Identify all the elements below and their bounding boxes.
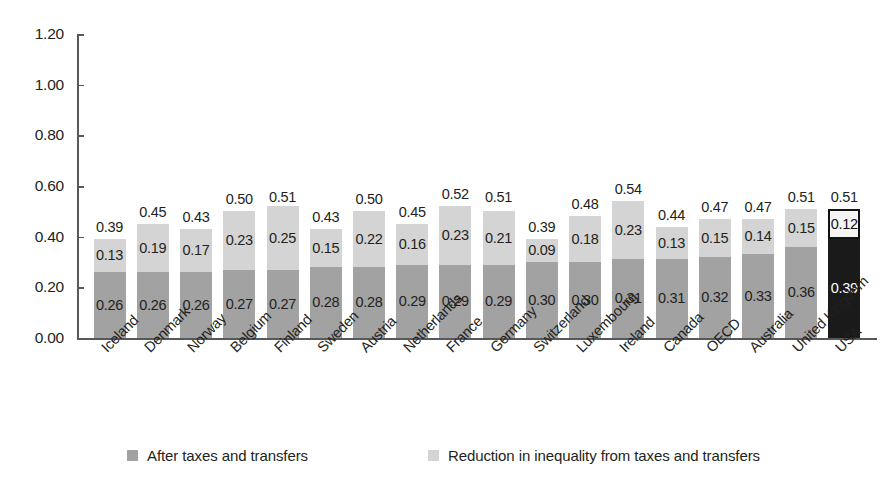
bar-value-label: 0.27 — [269, 297, 296, 312]
bar-value-label: 0.26 — [96, 298, 123, 313]
bar-value-label: 0.27 — [226, 297, 253, 312]
bar-value-label: 0.26 — [139, 298, 166, 313]
bar-segment-reduction[interactable]: 0.22 — [353, 211, 385, 267]
bar-value-label: 0.29 — [399, 294, 426, 309]
legend-swatch-icon — [127, 450, 138, 461]
bar-total-label: 0.44 — [658, 207, 685, 223]
bar-total-label: 0.39 — [528, 219, 555, 235]
y-axis-tick-label: 0.80 — [4, 126, 64, 144]
bar-segment-reduction[interactable]: 0.17 — [180, 229, 212, 272]
bar-value-label: 0.09 — [528, 243, 555, 258]
y-axis-tick-label: 1.00 — [4, 76, 64, 94]
bar-value-label: 0.12 — [831, 217, 858, 232]
bar-value-label: 0.15 — [788, 221, 815, 236]
bar-value-label: 0.19 — [139, 241, 166, 256]
bar-total-label: 0.50 — [226, 191, 253, 207]
bar-value-label: 0.14 — [744, 229, 771, 244]
legend-swatch-icon — [428, 450, 439, 461]
bar-value-label: 0.22 — [355, 232, 382, 247]
legend-label: Reduction in inequality from taxes and t… — [448, 447, 760, 464]
bar-value-label: 0.15 — [701, 231, 728, 246]
bar-germany[interactable]: 0.290.210.51 — [483, 209, 515, 338]
bar-value-label: 0.23 — [615, 223, 642, 238]
bar-total-label: 0.51 — [485, 189, 512, 205]
bar-total-label: 0.43 — [312, 209, 339, 225]
legend-item[interactable]: Reduction in inequality from taxes and t… — [428, 447, 760, 464]
bar-segment-reduction[interactable]: 0.13 — [94, 239, 126, 272]
bar-total-label: 0.51 — [831, 189, 858, 205]
bar-segment-reduction[interactable]: 0.23 — [612, 201, 644, 259]
bar-total-label: 0.52 — [442, 186, 469, 202]
bar-value-label: 0.30 — [528, 293, 555, 308]
bar-total-label: 0.51 — [269, 189, 296, 205]
bar-segment-reduction[interactable]: 0.23 — [223, 211, 255, 269]
y-axis-tick-label: 0.00 — [4, 329, 64, 347]
bar-value-label: 0.32 — [701, 290, 728, 305]
bar-total-label: 0.47 — [744, 199, 771, 215]
chart-legend: After taxes and transfersReduction in in… — [0, 447, 887, 464]
bar-total-label: 0.48 — [572, 196, 599, 212]
chart-container: 0.000.200.400.600.801.001.20 0.260.130.3… — [0, 0, 887, 489]
bar-total-label: 0.54 — [615, 181, 642, 197]
bar-segment-reduction[interactable]: 0.15 — [310, 229, 342, 267]
bar-segment-reduction[interactable]: 0.09 — [526, 239, 558, 262]
bar-segment-reduction[interactable]: 0.21 — [483, 211, 515, 264]
bar-value-label: 0.21 — [485, 231, 512, 246]
bar-value-label: 0.23 — [226, 233, 253, 248]
legend-item[interactable]: After taxes and transfers — [127, 447, 308, 464]
bar-value-label: 0.16 — [399, 237, 426, 252]
bar-value-label: 0.15 — [312, 241, 339, 256]
bar-value-label: 0.36 — [788, 285, 815, 300]
bar-total-label: 0.47 — [701, 199, 728, 215]
y-axis-tick-label: 1.20 — [4, 25, 64, 43]
bar-value-label: 0.31 — [658, 291, 685, 306]
bar-value-label: 0.29 — [485, 294, 512, 309]
bar-total-label: 0.51 — [788, 189, 815, 205]
legend-label: After taxes and transfers — [147, 447, 308, 464]
bar-segment-reduction[interactable]: 0.25 — [267, 206, 299, 269]
bar-segment-reduction[interactable]: 0.13 — [656, 227, 688, 260]
bar-value-label: 0.25 — [269, 231, 296, 246]
bar-total-label: 0.45 — [399, 204, 426, 220]
y-axis-tick-label: 0.60 — [4, 177, 64, 195]
bar-segment-reduction[interactable]: 0.14 — [742, 219, 774, 254]
bar-segment-reduction[interactable]: 0.15 — [785, 209, 817, 247]
bar-segment-reduction[interactable]: 0.18 — [569, 216, 601, 262]
bar-segment-reduction[interactable]: 0.23 — [439, 206, 471, 264]
y-axis-tick-label: 0.40 — [4, 228, 64, 246]
bar-segment-reduction[interactable]: 0.15 — [699, 219, 731, 257]
bar-total-label: 0.45 — [139, 204, 166, 220]
bar-segment-reduction[interactable]: 0.19 — [137, 224, 169, 272]
bar-segment-reduction[interactable]: 0.16 — [396, 224, 428, 265]
bar-value-label: 0.18 — [572, 232, 599, 247]
bar-value-label: 0.28 — [312, 295, 339, 310]
bars-layer: 0.260.130.390.260.190.450.260.170.430.27… — [77, 34, 877, 338]
bar-value-label: 0.23 — [442, 228, 469, 243]
plot-area: 0.000.200.400.600.801.001.20 0.260.130.3… — [77, 34, 877, 338]
bar-total-label: 0.43 — [183, 209, 210, 225]
bar-total-label: 0.39 — [96, 219, 123, 235]
bar-total-label: 0.50 — [355, 191, 382, 207]
bar-value-label: 0.17 — [183, 243, 210, 258]
bar-value-label: 0.28 — [355, 295, 382, 310]
bar-segment-reduction[interactable]: 0.12 — [828, 209, 860, 239]
bar-value-label: 0.13 — [658, 236, 685, 251]
x-axis-labels: IcelandDenmarkNorwayBelgiumFinlandSweden… — [77, 340, 877, 450]
bar-value-label: 0.33 — [744, 289, 771, 304]
y-axis-tick-label: 0.20 — [4, 278, 64, 296]
bar-value-label: 0.13 — [96, 248, 123, 263]
